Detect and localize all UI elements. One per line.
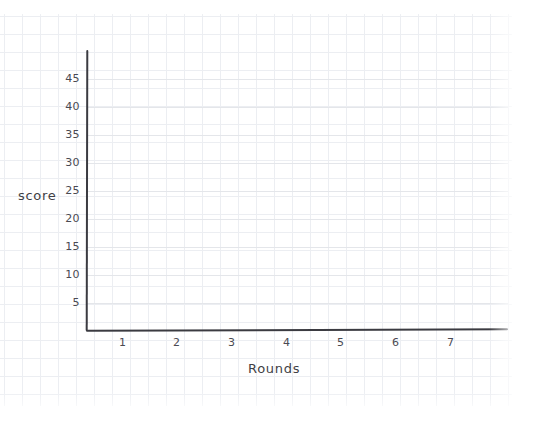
x-tick-label: 6 (392, 336, 399, 349)
y-tick-label: 20 (65, 212, 80, 225)
x-tick-label: 5 (337, 336, 344, 349)
y-tick-label: 45 (65, 72, 80, 85)
y-tick-label: 40 (65, 100, 80, 113)
y-tick-label: 25 (65, 184, 80, 197)
y-tick-40: 40 (52, 100, 80, 114)
gridline (87, 219, 508, 220)
y-tick-label: 30 (65, 156, 80, 169)
y-tick-label: 10 (65, 268, 80, 281)
y-tick-15: 15 (52, 240, 80, 254)
x-tick-1: 1 (107, 336, 131, 350)
x-tick-4: 4 (271, 336, 295, 350)
y-tick-10: 10 (52, 268, 80, 282)
y-tick-45: 45 (52, 72, 80, 86)
x-tick-7: 7 (435, 336, 459, 350)
x-axis-title: Rounds (248, 361, 300, 376)
y-tick-label: 35 (65, 128, 80, 141)
y-tick-20: 20 (52, 212, 80, 226)
x-tick-5: 5 (325, 336, 349, 350)
plot-area (87, 50, 508, 330)
x-tick-label: 2 (173, 336, 180, 349)
gridline (87, 163, 508, 164)
gridline (87, 247, 508, 248)
x-tick-3: 3 (216, 336, 240, 350)
x-tick-label: 4 (283, 336, 290, 349)
gridline (87, 303, 508, 304)
x-tick-label: 7 (447, 336, 454, 349)
gridline (87, 135, 508, 136)
cropped-title: Line graph plot (74, 0, 274, 3)
gridline (87, 275, 508, 276)
x-tick-6: 6 (380, 336, 404, 350)
y-axis-title: score (18, 188, 56, 203)
x-tick-label: 1 (119, 336, 126, 349)
chart-canvas: Line graph plot 45 40 35 30 25 20 15 10 … (0, 0, 535, 424)
x-tick-2: 2 (161, 336, 185, 350)
y-tick-label: 15 (65, 240, 80, 253)
y-tick-5: 5 (52, 296, 80, 310)
y-tick-label: 5 (73, 296, 80, 309)
y-tick-30: 30 (52, 156, 80, 170)
gridline (87, 79, 508, 80)
y-tick-35: 35 (52, 128, 80, 142)
x-tick-label: 3 (228, 336, 235, 349)
gridline (87, 107, 508, 108)
gridline (87, 191, 508, 192)
